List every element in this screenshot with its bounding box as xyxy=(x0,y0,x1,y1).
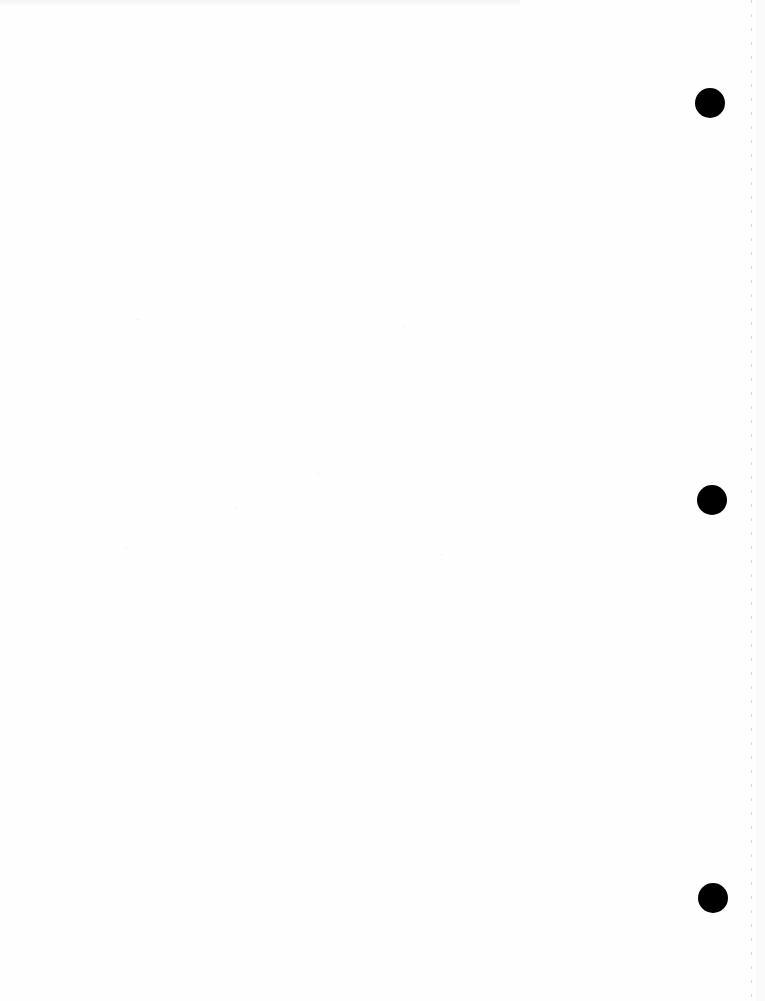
scan-edge-artifact xyxy=(0,0,520,5)
scan-speck xyxy=(236,508,237,509)
punch-hole-top xyxy=(695,88,725,118)
scan-speck xyxy=(126,548,127,549)
scan-speck xyxy=(403,326,404,327)
perforation-line xyxy=(751,0,752,1001)
scan-speck xyxy=(318,473,319,474)
punch-hole-middle xyxy=(697,485,727,515)
scan-speck xyxy=(137,319,138,320)
page-right-edge xyxy=(756,0,765,1001)
scan-speck xyxy=(441,554,442,555)
blank-sheet xyxy=(0,0,765,1001)
punch-hole-bottom xyxy=(698,883,728,913)
